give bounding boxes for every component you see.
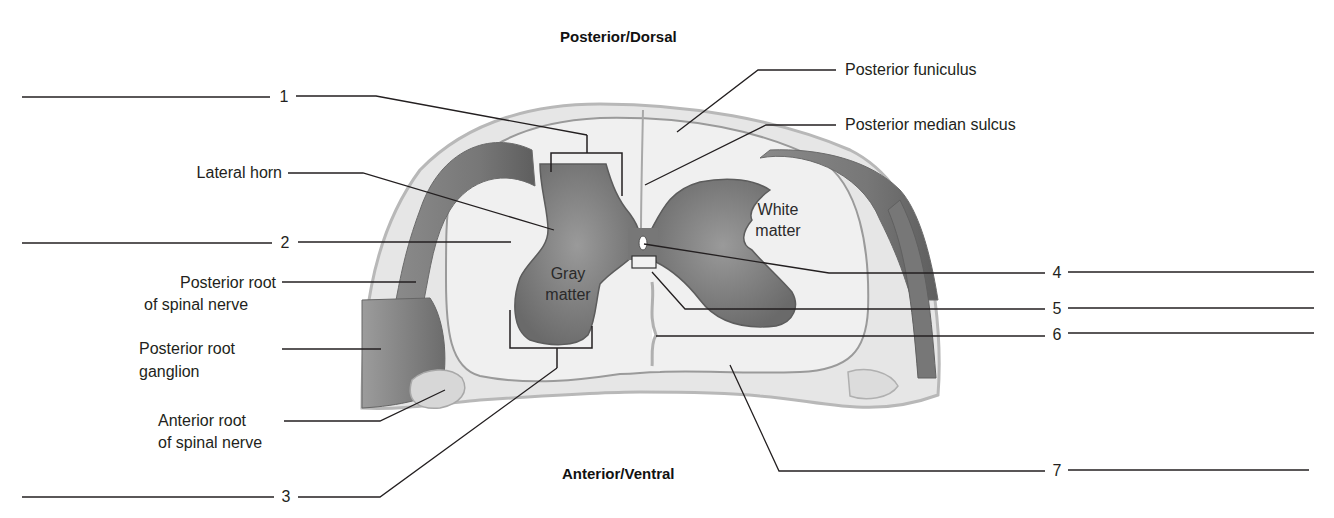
blank-number-5: 5 (1049, 300, 1065, 318)
spinal-cord-diagram: Posterior/Dorsal Anterior/Ventral 1 2 3 … (0, 0, 1334, 518)
posterior-dorsal-heading: Posterior/Dorsal (560, 28, 677, 45)
gray-matter-label-line1: Gray (536, 263, 600, 284)
label-posterior-root-spinal-nerve-line2: of spinal nerve (144, 294, 248, 315)
label-posterior-funiculus: Posterior funiculus (845, 59, 977, 80)
white-matter-label-line1: White (746, 199, 810, 220)
blank-number-2: 2 (277, 234, 293, 252)
label-anterior-root-spinal-nerve: Anterior root (158, 410, 246, 431)
label-anterior-root-spinal-nerve-line2: of spinal nerve (158, 432, 262, 453)
gray-matter-label: Gray matter (536, 263, 600, 305)
label-line: Posterior root (180, 272, 276, 293)
blank-number-1: 1 (276, 88, 292, 106)
blank-number-4: 4 (1049, 264, 1065, 282)
blank-number-7: 7 (1049, 462, 1065, 480)
central-canal (639, 236, 647, 250)
label-posterior-median-sulcus: Posterior median sulcus (845, 114, 1016, 135)
blank-number-6: 6 (1049, 326, 1065, 344)
blank-number-3: 3 (278, 488, 294, 506)
anterior-ventral-heading: Anterior/Ventral (562, 465, 675, 482)
label-lateral-horn: Lateral horn (197, 162, 282, 183)
label-posterior-root-ganglion-line2: ganglion (139, 361, 200, 382)
white-matter-label: White matter (746, 199, 810, 241)
label-posterior-root-spinal-nerve: Posterior root (180, 272, 276, 293)
label-posterior-root-ganglion: Posterior root (139, 338, 235, 359)
gray-matter-label-line2: matter (536, 284, 600, 305)
white-matter-label-line2: matter (746, 220, 810, 241)
